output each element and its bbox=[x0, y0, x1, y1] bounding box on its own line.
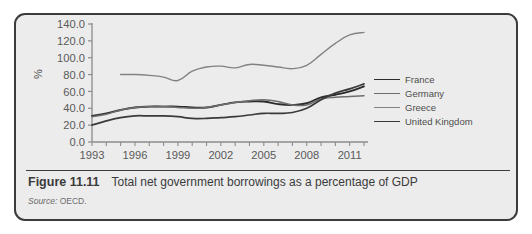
legend-item[interactable]: France bbox=[374, 73, 514, 86]
y-axis-tick-label: 0.0 bbox=[69, 136, 85, 148]
series-line-france bbox=[92, 86, 364, 116]
legend-item-label: Greece bbox=[405, 102, 436, 113]
series-line-united-kingdom bbox=[92, 84, 364, 125]
figure-source: Source: OECD. bbox=[28, 196, 87, 206]
x-axis-tick-label: 1996 bbox=[123, 149, 148, 161]
y-axis-tick-label: 60.0 bbox=[63, 86, 85, 98]
y-axis-tick-label: 80.0 bbox=[63, 69, 85, 81]
legend-line-swatch bbox=[374, 121, 400, 122]
chart-legend: FranceGermanyGreeceUnited Kingdom bbox=[374, 73, 514, 129]
source-label: Source: bbox=[28, 196, 57, 206]
legend-item-label: Germany bbox=[405, 88, 444, 99]
figure-card: 0.020.040.060.080.0100.0120.0140.0199319… bbox=[14, 13, 518, 221]
legend-item-label: United Kingdom bbox=[405, 116, 473, 127]
series-line-greece bbox=[121, 32, 364, 80]
legend-item[interactable]: Germany bbox=[374, 87, 514, 100]
legend-item-label: France bbox=[405, 74, 435, 85]
x-axis-tick-label: 2011 bbox=[338, 149, 362, 161]
legend-item[interactable]: Greece bbox=[374, 101, 514, 114]
figure-number: Figure 11.11 bbox=[28, 175, 100, 189]
x-axis-tick-label: 1999 bbox=[165, 149, 190, 161]
y-axis-unit-label: % bbox=[32, 69, 44, 79]
legend-line-swatch bbox=[374, 79, 400, 80]
x-axis-tick-label: 1993 bbox=[80, 149, 105, 161]
figure-screenshot: 0.020.040.060.080.0100.0120.0140.0199319… bbox=[0, 0, 532, 234]
x-axis-tick-label: 2008 bbox=[294, 149, 319, 161]
legend-item[interactable]: United Kingdom bbox=[374, 115, 514, 128]
y-axis-tick-label: 40.0 bbox=[63, 102, 85, 114]
y-axis-tick-label: 120.0 bbox=[57, 35, 85, 47]
figure-caption: Figure 11.11 Total net government borrow… bbox=[28, 175, 508, 189]
legend-line-swatch bbox=[374, 107, 400, 108]
y-axis-tick-label: 20.0 bbox=[63, 119, 85, 131]
y-axis-tick-label: 140.0 bbox=[57, 18, 85, 30]
y-axis-tick-label: 100.0 bbox=[57, 52, 85, 64]
x-axis-tick-label: 2002 bbox=[208, 149, 233, 161]
source-value: OECD. bbox=[60, 196, 87, 206]
caption-divider bbox=[26, 170, 510, 171]
x-axis-tick-label: 2005 bbox=[251, 149, 276, 161]
figure-caption-text: Total net government borrowings as a per… bbox=[112, 175, 418, 189]
legend-line-swatch bbox=[374, 93, 400, 94]
